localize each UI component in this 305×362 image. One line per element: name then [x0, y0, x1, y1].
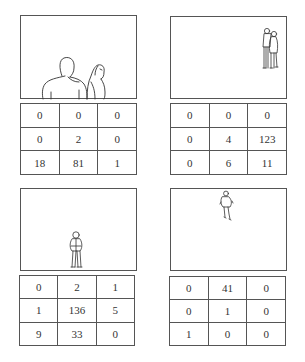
grid-cell: 41	[208, 277, 247, 300]
grid-cell: 1	[208, 300, 247, 323]
person-walking-icon	[171, 189, 288, 272]
count-grid-4: 0 41 0 0 1 0 1 0 0	[169, 276, 286, 346]
grid-cell: 9	[20, 322, 58, 345]
grid-cell: 0	[171, 104, 210, 128]
grid-cell: 1	[170, 323, 209, 346]
grid-cell: 4	[209, 127, 248, 151]
count-grid-2: 0 0 0 0 4 123 0 6 11	[170, 103, 287, 175]
grid-cell: 0	[171, 127, 210, 151]
grid-row: 1 136 5	[20, 299, 135, 322]
scene-image-2	[170, 16, 287, 99]
grid-cell: 0	[96, 322, 134, 345]
grid-cell: 0	[59, 104, 98, 128]
grid-row: 18 81 1	[21, 151, 137, 175]
grid-cell: 0	[248, 104, 287, 128]
grid-cell: 0	[208, 323, 247, 346]
grid-row: 0 6 11	[171, 151, 287, 175]
grid-cell: 0	[209, 104, 248, 128]
grid-cell: 1	[98, 151, 137, 175]
grid-cell: 18	[21, 151, 60, 175]
grid-cell: 11	[248, 151, 287, 175]
grid-cell: 0	[20, 276, 58, 299]
grid-cell: 1	[96, 276, 134, 299]
scene-image-1	[20, 15, 137, 99]
scene-image-4	[170, 188, 287, 271]
grid-row: 1 0 0	[170, 323, 286, 346]
grid-cell: 0	[171, 151, 210, 175]
grid-cell: 0	[98, 104, 137, 128]
scene-image-3	[20, 188, 137, 271]
grid-cell: 123	[248, 127, 287, 151]
grid-cell: 0	[247, 277, 286, 300]
grid-cell: 5	[96, 299, 134, 322]
person-standing-icon	[21, 189, 138, 272]
count-grid-3: 0 2 1 1 136 5 9 33 0	[19, 275, 135, 346]
grid-cell: 0	[21, 104, 60, 128]
grid-row: 0 41 0	[170, 277, 286, 300]
grid-cell: 0	[21, 127, 60, 151]
grid-row: 0 0 0	[171, 104, 287, 128]
two-people-standing-icon	[171, 17, 288, 100]
grid-row: 9 33 0	[20, 322, 135, 345]
grid-cell: 33	[58, 322, 96, 345]
count-grid-1: 0 0 0 0 2 0 18 81 1	[20, 103, 137, 175]
grid-cell: 0	[170, 277, 209, 300]
grid-row: 0 0 0	[21, 104, 137, 128]
grid-cell: 0	[170, 300, 209, 323]
grid-row: 0 2 1	[20, 276, 135, 299]
two-people-foreground-icon	[21, 16, 138, 100]
grid-row: 0 1 0	[170, 300, 286, 323]
grid-row: 0 2 0	[21, 127, 137, 151]
grid-cell: 81	[59, 151, 98, 175]
grid-cell: 1	[20, 299, 58, 322]
grid-row: 0 4 123	[171, 127, 287, 151]
grid-cell: 0	[98, 127, 137, 151]
grid-cell: 0	[247, 323, 286, 346]
grid-cell: 0	[247, 300, 286, 323]
grid-cell: 136	[58, 299, 96, 322]
grid-cell: 6	[209, 151, 248, 175]
grid-cell: 2	[59, 127, 98, 151]
grid-cell: 2	[58, 276, 96, 299]
